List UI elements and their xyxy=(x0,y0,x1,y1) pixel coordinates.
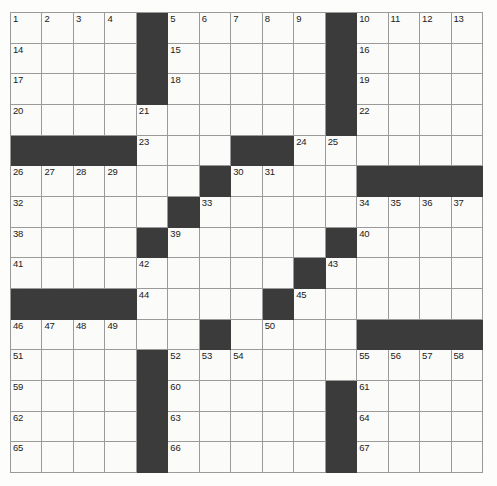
grid-cell-open[interactable]: 42 xyxy=(137,258,168,289)
grid-cell-open[interactable] xyxy=(231,320,262,351)
grid-cell-open[interactable] xyxy=(294,228,325,259)
grid-cell-open[interactable] xyxy=(263,74,294,105)
grid-cell-open[interactable] xyxy=(105,228,136,259)
grid-cell-open[interactable] xyxy=(326,320,357,351)
grid-cell-open[interactable] xyxy=(42,228,73,259)
grid-cell-open[interactable] xyxy=(200,74,231,105)
grid-cell-open[interactable] xyxy=(420,228,451,259)
grid-cell-open[interactable] xyxy=(420,105,451,136)
grid-cell-open[interactable] xyxy=(168,136,199,167)
grid-cell-open[interactable] xyxy=(105,197,136,228)
grid-cell-open[interactable]: 13 xyxy=(452,13,483,44)
grid-cell-open[interactable] xyxy=(389,228,420,259)
grid-cell-open[interactable] xyxy=(294,442,325,473)
grid-cell-open[interactable] xyxy=(389,412,420,443)
grid-cell-open[interactable] xyxy=(420,289,451,320)
grid-cell-open[interactable] xyxy=(74,105,105,136)
grid-cell-open[interactable]: 33 xyxy=(200,197,231,228)
grid-cell-open[interactable] xyxy=(168,105,199,136)
grid-cell-open[interactable]: 39 xyxy=(168,228,199,259)
grid-cell-open[interactable] xyxy=(42,74,73,105)
grid-cell-open[interactable] xyxy=(105,442,136,473)
grid-cell-open[interactable] xyxy=(389,258,420,289)
grid-cell-open[interactable] xyxy=(74,74,105,105)
grid-cell-open[interactable]: 19 xyxy=(357,74,388,105)
grid-cell-open[interactable] xyxy=(452,228,483,259)
grid-cell-open[interactable] xyxy=(74,228,105,259)
grid-cell-open[interactable] xyxy=(294,105,325,136)
grid-cell-open[interactable] xyxy=(200,258,231,289)
grid-cell-open[interactable] xyxy=(105,412,136,443)
grid-cell-open[interactable]: 56 xyxy=(389,350,420,381)
grid-cell-open[interactable] xyxy=(200,228,231,259)
grid-cell-open[interactable] xyxy=(42,105,73,136)
grid-cell-open[interactable]: 1 xyxy=(11,13,42,44)
grid-cell-open[interactable] xyxy=(74,258,105,289)
grid-cell-open[interactable]: 50 xyxy=(263,320,294,351)
grid-cell-open[interactable] xyxy=(42,350,73,381)
grid-cell-open[interactable] xyxy=(200,412,231,443)
grid-cell-open[interactable] xyxy=(326,166,357,197)
grid-cell-open[interactable]: 23 xyxy=(137,136,168,167)
grid-cell-open[interactable]: 47 xyxy=(42,320,73,351)
grid-cell-open[interactable] xyxy=(294,166,325,197)
grid-cell-open[interactable]: 3 xyxy=(74,13,105,44)
grid-cell-open[interactable]: 20 xyxy=(11,105,42,136)
grid-cell-open[interactable] xyxy=(168,289,199,320)
grid-cell-open[interactable]: 44 xyxy=(137,289,168,320)
grid-cell-open[interactable]: 51 xyxy=(11,350,42,381)
grid-cell-open[interactable] xyxy=(200,44,231,75)
grid-cell-open[interactable] xyxy=(105,105,136,136)
grid-cell-open[interactable]: 60 xyxy=(168,381,199,412)
grid-cell-open[interactable] xyxy=(389,289,420,320)
grid-cell-open[interactable] xyxy=(263,197,294,228)
grid-cell-open[interactable] xyxy=(294,320,325,351)
grid-cell-open[interactable] xyxy=(357,258,388,289)
grid-cell-open[interactable] xyxy=(294,412,325,443)
grid-cell-open[interactable] xyxy=(452,381,483,412)
grid-cell-open[interactable] xyxy=(105,258,136,289)
grid-cell-open[interactable]: 59 xyxy=(11,381,42,412)
grid-cell-open[interactable] xyxy=(42,197,73,228)
grid-cell-open[interactable]: 11 xyxy=(389,13,420,44)
grid-cell-open[interactable] xyxy=(200,289,231,320)
grid-cell-open[interactable] xyxy=(389,136,420,167)
grid-cell-open[interactable]: 35 xyxy=(389,197,420,228)
grid-cell-open[interactable] xyxy=(420,74,451,105)
grid-cell-open[interactable]: 29 xyxy=(105,166,136,197)
grid-cell-open[interactable] xyxy=(389,44,420,75)
grid-cell-open[interactable] xyxy=(389,105,420,136)
grid-cell-open[interactable] xyxy=(231,289,262,320)
grid-cell-open[interactable] xyxy=(74,412,105,443)
grid-cell-open[interactable] xyxy=(42,258,73,289)
grid-cell-open[interactable] xyxy=(452,442,483,473)
grid-cell-open[interactable] xyxy=(137,166,168,197)
grid-cell-open[interactable] xyxy=(137,197,168,228)
grid-cell-open[interactable]: 46 xyxy=(11,320,42,351)
grid-cell-open[interactable] xyxy=(452,136,483,167)
grid-cell-open[interactable]: 32 xyxy=(11,197,42,228)
grid-cell-open[interactable]: 21 xyxy=(137,105,168,136)
grid-cell-open[interactable] xyxy=(452,289,483,320)
grid-cell-open[interactable] xyxy=(326,197,357,228)
grid-cell-open[interactable]: 30 xyxy=(231,166,262,197)
grid-cell-open[interactable] xyxy=(263,258,294,289)
grid-cell-open[interactable] xyxy=(105,44,136,75)
grid-cell-open[interactable]: 38 xyxy=(11,228,42,259)
grid-cell-open[interactable] xyxy=(42,412,73,443)
grid-cell-open[interactable] xyxy=(357,289,388,320)
grid-cell-open[interactable] xyxy=(389,442,420,473)
grid-cell-open[interactable]: 67 xyxy=(357,442,388,473)
grid-cell-open[interactable] xyxy=(420,258,451,289)
grid-cell-open[interactable] xyxy=(452,412,483,443)
grid-cell-open[interactable]: 37 xyxy=(452,197,483,228)
grid-cell-open[interactable]: 57 xyxy=(420,350,451,381)
grid-cell-open[interactable]: 40 xyxy=(357,228,388,259)
grid-cell-open[interactable] xyxy=(231,228,262,259)
grid-cell-open[interactable] xyxy=(231,105,262,136)
grid-cell-open[interactable] xyxy=(263,105,294,136)
grid-cell-open[interactable]: 26 xyxy=(11,166,42,197)
grid-cell-open[interactable] xyxy=(168,320,199,351)
grid-cell-open[interactable] xyxy=(231,44,262,75)
crossword-grid[interactable]: 1234567891011121314151617181920212223242… xyxy=(10,12,483,473)
